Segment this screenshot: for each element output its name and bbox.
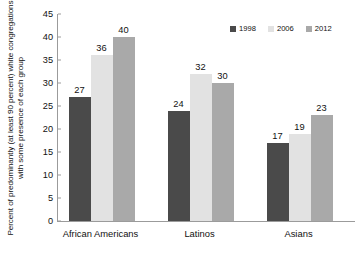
bar[interactable]: 32 bbox=[190, 74, 212, 221]
x-axis-category-label: Latinos bbox=[184, 228, 214, 239]
bar[interactable]: 30 bbox=[212, 83, 234, 221]
bar-group: 243230 bbox=[168, 14, 234, 221]
bars-layer: 273640243230171923 bbox=[58, 14, 355, 221]
legend-item[interactable]: 1998 bbox=[230, 24, 256, 33]
bar-group: 273640 bbox=[69, 14, 135, 221]
bar[interactable]: 36 bbox=[91, 55, 113, 221]
bar-value-label: 30 bbox=[217, 71, 227, 81]
y-axis-tick-label: 40 bbox=[43, 32, 58, 42]
bar-group: 171923 bbox=[267, 14, 333, 221]
bar-value-label: 19 bbox=[294, 122, 304, 132]
bar-value-label: 32 bbox=[195, 62, 205, 72]
y-axis-title-text: Percent of predominantly (at least 90 pe… bbox=[6, 0, 27, 236]
legend-swatch-icon bbox=[268, 26, 274, 32]
plot-area: 051015202530354045 273640243230171923 bbox=[57, 14, 355, 222]
y-axis-tick-label: 5 bbox=[48, 193, 58, 203]
bar[interactable]: 23 bbox=[311, 115, 333, 221]
bar-value-label: 17 bbox=[272, 131, 282, 141]
legend-swatch-icon bbox=[306, 26, 312, 32]
bar[interactable]: 40 bbox=[113, 37, 135, 221]
y-axis-tick-label: 0 bbox=[48, 216, 58, 226]
y-axis-title: Percent of predominantly (at least 90 pe… bbox=[0, 0, 32, 240]
legend-label: 1998 bbox=[239, 24, 256, 33]
y-axis-tick-label: 45 bbox=[43, 9, 58, 19]
bar-value-label: 27 bbox=[74, 85, 84, 95]
bar-value-label: 24 bbox=[173, 99, 183, 109]
bar-chart-figure: Percent of predominantly (at least 90 pe… bbox=[0, 0, 364, 263]
y-axis-tick-label: 10 bbox=[43, 170, 58, 180]
y-axis-tick-label: 25 bbox=[43, 101, 58, 111]
bar[interactable]: 19 bbox=[289, 134, 311, 221]
y-axis-tick-label: 20 bbox=[43, 124, 58, 134]
legend-item[interactable]: 2006 bbox=[268, 24, 294, 33]
bar-value-label: 36 bbox=[96, 43, 106, 53]
legend-label: 2012 bbox=[315, 24, 332, 33]
chart-legend: 199820062012 bbox=[230, 24, 332, 33]
legend-label: 2006 bbox=[277, 24, 294, 33]
y-axis-tick-label: 30 bbox=[43, 78, 58, 88]
x-axis-category-label: Asians bbox=[284, 228, 312, 239]
legend-item[interactable]: 2012 bbox=[306, 24, 332, 33]
legend-swatch-icon bbox=[230, 26, 236, 32]
y-axis-tick-label: 35 bbox=[43, 55, 58, 65]
bar[interactable]: 24 bbox=[168, 111, 190, 221]
bar[interactable]: 27 bbox=[69, 97, 91, 221]
bar[interactable]: 17 bbox=[267, 143, 289, 221]
bar-value-label: 23 bbox=[316, 103, 326, 113]
bar-value-label: 40 bbox=[118, 25, 128, 35]
y-axis-tick-label: 15 bbox=[43, 147, 58, 157]
x-axis-category-label: African Americans bbox=[63, 228, 139, 239]
